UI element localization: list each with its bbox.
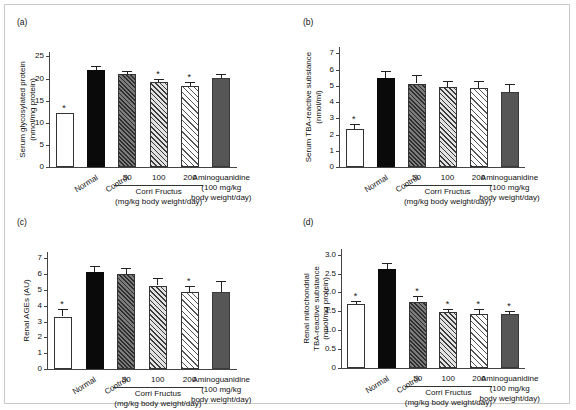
y-tick-label: 10 (17, 118, 44, 127)
x-axis-line-c (47, 369, 237, 370)
y-tick-label: 7 (15, 253, 42, 262)
amino-label-line2: (100 mg/kg (176, 385, 266, 395)
y-tick-label: 2.0 (309, 287, 336, 296)
y-tick (336, 70, 339, 71)
x-axis-line-a (49, 167, 237, 168)
significance-marker: * (446, 300, 450, 309)
panel-d: (d)Renal mitochondrialTBA-reactive subst… (291, 205, 576, 410)
panel-title-b: (b) (303, 17, 313, 27)
x-tick-label-dose-100: 100 (144, 375, 172, 384)
amino-label-line3: body weight/day) (176, 193, 266, 203)
error-bar (509, 84, 510, 93)
error-bar-cap (185, 82, 195, 83)
error-bar-cap (91, 66, 101, 67)
error-bar-cap (381, 71, 391, 72)
error-bar-cap (412, 75, 422, 76)
y-tick (338, 274, 341, 275)
y-tick-label: 1 (15, 348, 42, 357)
bar-b-0 (346, 129, 364, 167)
y-tick (46, 145, 49, 146)
x-tick-label-normal: Normal (364, 374, 391, 395)
x-tick-label-dose-50: 50 (403, 173, 431, 182)
y-tick-label: 25 (17, 51, 44, 60)
panel-c: (c)Renal AGEs (AU)01234567**NormalContro… (5, 205, 293, 410)
error-bar-cap (122, 71, 132, 72)
x-axis-line-b (339, 167, 525, 168)
y-tick (44, 369, 47, 370)
bar-b-2 (408, 84, 426, 168)
significance-marker: * (477, 300, 481, 309)
y-tick (44, 258, 47, 259)
error-bar-cap (185, 286, 195, 287)
y-tick (46, 123, 49, 124)
y-tick-label: 0 (307, 162, 334, 171)
amino-label-line2: (100 mg/kg (176, 183, 266, 193)
y-tick (44, 306, 47, 307)
y-tick-label: 3 (307, 113, 334, 122)
bar-d-2 (409, 302, 427, 369)
y-tick (338, 330, 341, 331)
amino-label-line3: body weight/day) (465, 193, 555, 203)
y-tick (44, 353, 47, 354)
y-tick-label: 3 (15, 317, 42, 326)
error-bar-cap (474, 309, 484, 310)
significance-marker: * (354, 292, 358, 301)
y-tick-label: 20 (17, 74, 44, 83)
y-axis-label-line: Serum glycosylated protein (18, 52, 28, 167)
error-bar-cap (350, 124, 360, 125)
panel-title-c: (c) (17, 217, 27, 227)
amino-label-line1: Aminoguanidine (465, 173, 555, 183)
y-tick-label: 1.5 (309, 306, 336, 315)
x-tick-label-dose-100: 100 (434, 374, 462, 383)
error-bar-cap (505, 84, 515, 85)
panel-title-d: (d) (303, 217, 313, 227)
y-tick-label: 4 (15, 301, 42, 310)
y-tick-label: 7 (307, 48, 334, 57)
y-tick-label: 5 (17, 140, 44, 149)
bar-c-2 (117, 274, 135, 369)
bar-b-1 (377, 78, 395, 167)
y-tick (44, 337, 47, 338)
y-tick-label: 2.5 (309, 269, 336, 278)
x-tick-label-normal: Normal (362, 173, 389, 194)
error-bar-cap (505, 311, 515, 312)
y-axis-label-a: Serum glycosylated protein(nmol/mg prote… (18, 52, 37, 167)
bar-b-5 (501, 92, 519, 167)
error-bar (478, 81, 479, 88)
y-tick (46, 56, 49, 57)
y-tick (338, 349, 341, 350)
y-tick (44, 290, 47, 291)
amino-label-line3: body weight/day) (176, 395, 266, 405)
error-bar-cap (443, 81, 453, 82)
bar-d-1 (378, 269, 396, 368)
x-tick-label-dose-50: 50 (112, 375, 140, 384)
y-tick-label: 1 (307, 146, 334, 155)
y-tick (338, 368, 341, 369)
bar-c-1 (86, 272, 104, 369)
y-tick-label: 2 (15, 332, 42, 341)
y-axis-line-b (339, 47, 340, 168)
amino-label-line1: Aminoguanidine (176, 375, 266, 385)
significance-marker: * (507, 302, 511, 311)
y-tick-label: 0.5 (309, 344, 336, 353)
amino-label-line3: body weight/day) (465, 394, 555, 404)
error-bar-cap (443, 309, 453, 310)
y-tick-label: 6 (307, 65, 334, 74)
significance-marker: * (352, 115, 356, 124)
x-axis-line-d (341, 368, 525, 369)
y-tick-label: 5 (307, 81, 334, 90)
error-bar-cap (216, 74, 226, 75)
error-bar (385, 71, 386, 78)
panel-title-a: (a) (17, 17, 27, 27)
y-tick (46, 79, 49, 80)
y-tick-label: 3.0 (309, 250, 336, 259)
y-tick-label: 4 (307, 97, 334, 106)
error-bar-cap (216, 281, 226, 282)
bar-c-3 (149, 286, 167, 370)
amino-label-line2: (100 mg/kg (465, 384, 555, 394)
significance-marker: * (415, 287, 419, 296)
significance-marker: * (60, 300, 64, 309)
bar-a-2 (118, 74, 136, 167)
y-tick (46, 101, 49, 102)
bar-a-5 (212, 78, 230, 167)
